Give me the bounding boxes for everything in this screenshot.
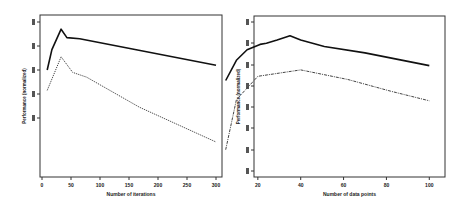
x-tick-label: 100 [96, 182, 105, 188]
y-tick-label [32, 91, 35, 97]
x-axis-label: Number of data points [323, 191, 376, 197]
x-tick-label: 50 [68, 182, 74, 188]
series-line-1 [47, 29, 216, 70]
figure: 050100150200250300Number of iterationsPe… [0, 0, 468, 209]
y-axis-label: Performance (normalized) [236, 68, 241, 124]
y-tick-label [246, 40, 249, 46]
x-tick-label: 150 [125, 182, 134, 188]
x-tick-label: 60 [341, 182, 347, 188]
y-tick-label [32, 67, 35, 73]
y-tick-label [246, 62, 249, 68]
x-tick-label: 100 [425, 182, 434, 188]
x-tick-label: 20 [255, 182, 261, 188]
y-tick-label [32, 115, 35, 121]
x-tick-label: 80 [384, 182, 390, 188]
y-axis-label: Performance (normalized) [22, 68, 27, 124]
series-line-1 [226, 36, 430, 81]
series-line-2 [47, 57, 216, 142]
series-line-2 [226, 70, 430, 150]
y-tick-label [246, 168, 249, 174]
x-tick-label: 300 [212, 182, 221, 188]
x-axis-label: Number of iterations [107, 191, 156, 197]
y-tick-label [32, 19, 35, 25]
y-tick-label [246, 147, 249, 153]
x-tick-label: 250 [183, 182, 192, 188]
plot-frame [40, 15, 222, 177]
x-tick-label: 0 [41, 182, 44, 188]
x-tick-label: 40 [298, 182, 304, 188]
y-tick-label [246, 104, 249, 110]
y-tick-label [246, 19, 249, 25]
chart-panel-2: 20406080100Number of data pointsPerforma… [226, 16, 445, 197]
chart-canvas: 050100150200250300Number of iterationsPe… [0, 0, 468, 209]
plot-frame [254, 16, 445, 177]
y-tick-label [246, 125, 249, 131]
chart-panel-1: 050100150200250300Number of iterationsPe… [22, 15, 222, 197]
y-tick-label [32, 43, 35, 49]
x-tick-label: 200 [154, 182, 163, 188]
